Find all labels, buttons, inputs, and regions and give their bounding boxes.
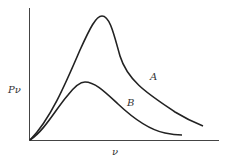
label-a: A bbox=[149, 71, 157, 82]
chart: A B Pν ν bbox=[0, 0, 226, 166]
curve-a bbox=[30, 16, 203, 140]
curve-b bbox=[30, 82, 182, 140]
x-axis-label: ν bbox=[112, 146, 118, 157]
label-b: B bbox=[126, 97, 134, 108]
y-axis-label: Pν bbox=[7, 84, 21, 95]
